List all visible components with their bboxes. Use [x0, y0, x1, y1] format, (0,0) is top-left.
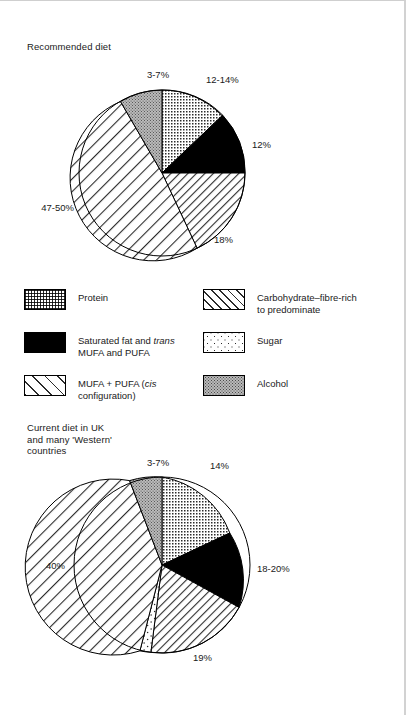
slice-label-carbohydrate: 18% [214, 234, 234, 245]
slice-label-carbohydrate: 19% [193, 652, 213, 663]
legend-swatch-mufa-pufa [24, 375, 66, 396]
legend: Protein Saturated fat and transMUFA and … [0, 282, 406, 412]
panel-title-recommended-diet: Recommended diet [27, 41, 111, 53]
legend-label-carbohydrate: Carbohydrate–fibre-rich to predominate [257, 288, 357, 315]
legend-item-saturated-fat[interactable]: Saturated fat and transMUFA and PUFA [24, 331, 175, 358]
pie-chart-recommended-diet: 3-7% 12-14% 12% 18% 47-50% [60, 63, 270, 263]
slice-label-saturated-fat: 18-20% [257, 563, 290, 574]
legend-label-saturated-fat: Saturated fat and transMUFA and PUFA [78, 331, 175, 358]
slice-label-saturated-fat: 12% [252, 139, 272, 150]
legend-item-carbohydrate[interactable]: Carbohydrate–fibre-rich to predominate [203, 288, 357, 315]
pie-chart-current-diet: 3-7% 14% 18-20% 19% 40% [55, 456, 275, 671]
legend-swatch-alcohol [203, 375, 245, 396]
legend-label-alcohol: Alcohol [257, 374, 288, 390]
slice-label-protein: 12-14% [206, 74, 239, 85]
legend-item-sugar[interactable]: Sugar [203, 331, 282, 353]
legend-label-sugar: Sugar [257, 331, 282, 347]
slice-label-mufa-pufa: 40% [46, 560, 66, 571]
legend-swatch-sugar [203, 332, 245, 353]
legend-swatch-carbohydrate [203, 289, 245, 310]
legend-item-mufa-pufa[interactable]: MUFA + PUFA (cisconfiguration) [24, 374, 156, 401]
legend-item-alcohol[interactable]: Alcohol [203, 374, 288, 396]
figure-container: Recommended diet 3-7% 12-14% 12% 18% 47-… [0, 0, 406, 715]
legend-item-protein[interactable]: Protein [24, 288, 108, 310]
slice-label-protein: 14% [210, 460, 230, 471]
legend-label-protein: Protein [78, 288, 108, 304]
legend-label-mufa-pufa: MUFA + PUFA (cisconfiguration) [78, 374, 156, 401]
slice-label-alcohol: 3-7% [147, 69, 170, 80]
panel-title-current-diet: Current diet in UK and many 'Western' co… [27, 422, 112, 457]
legend-swatch-saturated-fat [24, 332, 66, 353]
slice-label-mufa-pufa: 47-50% [41, 202, 74, 213]
slice-label-alcohol: 3-7% [147, 457, 170, 468]
legend-swatch-protein [24, 289, 66, 310]
